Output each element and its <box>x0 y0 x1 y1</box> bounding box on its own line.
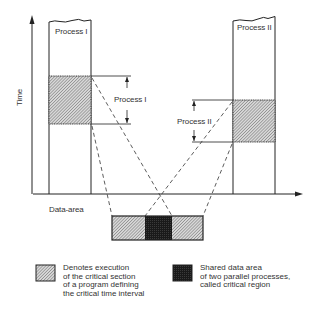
process-2-column-label: Process II <box>237 23 272 32</box>
data-area-process-2-segment <box>172 216 203 240</box>
data-area-label: Data-area <box>49 205 84 214</box>
axis-arrow-right-icon <box>295 192 303 197</box>
process-1-column-label: Process I <box>55 27 87 36</box>
baseline <box>33 192 303 197</box>
process-2-dimension-label: Process II <box>177 117 212 126</box>
process-1-column <box>49 19 91 194</box>
legend-line: the critical time interval <box>63 290 144 299</box>
dimension-arrow-down-icon <box>125 118 129 123</box>
process-2-column <box>233 17 275 195</box>
dimension-arrow-up-icon <box>192 101 196 106</box>
legend-critical-region-description: Shared data area of two parallel process… <box>200 264 290 290</box>
legend-critical-region-swatch <box>173 265 192 281</box>
data-area-process-1-segment <box>112 216 145 240</box>
projection-lines <box>92 78 232 216</box>
axis-arrow-up-icon <box>30 15 35 24</box>
dimension-arrow-up-icon <box>125 77 129 82</box>
time-axis-label: Time <box>15 89 24 106</box>
legend-hatched-swatch <box>36 265 55 281</box>
diagram-canvas <box>0 0 313 309</box>
critical-region-segment <box>145 216 172 240</box>
dimension-arrow-down-icon <box>192 136 196 141</box>
process-1-critical-section <box>49 76 91 124</box>
legend-hatched-description: Denotes execution of the critical sectio… <box>63 264 144 298</box>
time-axis <box>30 15 35 194</box>
process-2-critical-section <box>233 100 275 142</box>
data-area-bar <box>112 216 203 240</box>
process-1-dimension-label: Process I <box>114 95 146 104</box>
legend-line: called critical region <box>200 281 290 290</box>
